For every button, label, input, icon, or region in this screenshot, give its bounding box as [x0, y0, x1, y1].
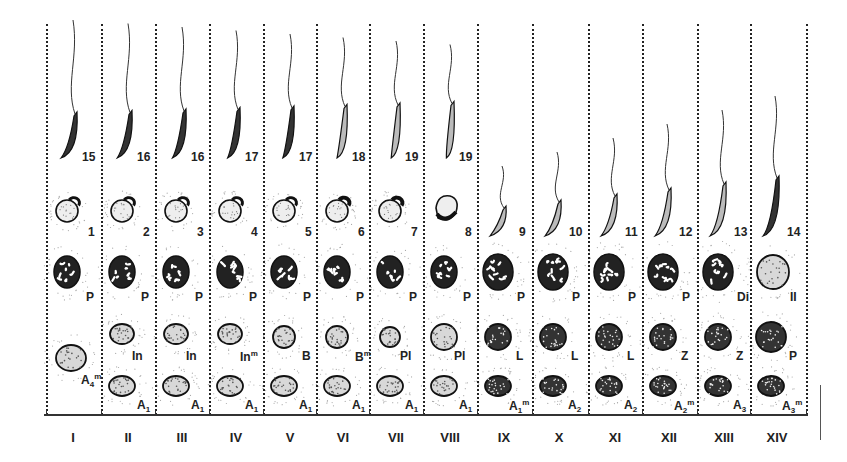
superscript: m [522, 398, 529, 407]
row-p-label-text: P [463, 290, 471, 304]
subscript: 2 [633, 405, 637, 414]
row-mid-label-text: In [186, 349, 197, 363]
spermatid-mid-label-text: 3 [197, 225, 204, 239]
subscript: 1 [308, 405, 312, 414]
column-divider [46, 24, 48, 415]
spermatogonia-a-label-text: A [245, 398, 254, 412]
column-divider [750, 24, 752, 415]
row-p-label: P [572, 291, 580, 303]
row-mid-label-text: L [516, 349, 523, 363]
row-mid-label: Bm [355, 350, 371, 363]
stage-label-vi: VI [316, 430, 370, 445]
superscript: m [364, 349, 371, 358]
row-mid-label-text: P [789, 349, 797, 363]
stage-label-v: V [263, 430, 317, 445]
axis-tick [263, 410, 264, 416]
row-p-label-text: P [628, 290, 636, 304]
row-p-label-text: P [303, 290, 311, 304]
row-p-label-text: Di [737, 290, 749, 304]
spermatid-mid-label-text: 13 [734, 225, 747, 239]
spermatogonia-a-label: A3 [733, 399, 746, 414]
spermatogonia-a-label-text: A [674, 399, 683, 413]
row-mid-label: Pl [400, 350, 411, 362]
spermatid-mid-label: 6 [358, 226, 365, 238]
spermatid-mid-label: 3 [197, 226, 204, 238]
row-p-label: P [682, 291, 690, 303]
row-mid-label-text: Z [681, 349, 688, 363]
axis-tick [806, 410, 807, 416]
spermatogonia-a-label: A3m [782, 399, 802, 415]
spermatid-step-label: 19 [405, 151, 418, 163]
row-p-label: II [790, 291, 797, 303]
stage-label-viii: VIII [423, 430, 477, 445]
spermatid-mid-label: 2 [143, 226, 150, 238]
spermatid-mid-label: 5 [305, 226, 312, 238]
spermatid-step-label-text: 19 [459, 150, 472, 164]
edge-mark [820, 385, 821, 440]
column-divider [588, 24, 590, 415]
spermatogonia-a-label: A1m [509, 399, 529, 415]
row-mid-label: L [516, 350, 523, 362]
spermatogonia-a-label-text: A [568, 398, 577, 412]
spermatid-mid-label: 14 [787, 226, 800, 238]
row-mid-label: Z [681, 350, 688, 362]
superscript: m [94, 372, 101, 381]
superscript: m [795, 398, 802, 407]
spermatogonia-a-label-text: A [459, 398, 468, 412]
superscript: m [687, 398, 694, 407]
row-p-label-text: P [249, 290, 257, 304]
column-divider [263, 24, 265, 415]
row-mid-label-text: Pl [454, 349, 465, 363]
column-divider [697, 24, 699, 415]
spermatid-mid-label-text: 6 [358, 225, 365, 239]
spermatid-mid-label: 9 [519, 226, 526, 238]
spermatid-mid-label-text: 9 [519, 225, 526, 239]
subscript: 3 [791, 406, 795, 415]
column-divider [101, 24, 103, 415]
spermatogonia-a-label: A1 [405, 399, 418, 414]
spermatid-mid-label-text: 14 [787, 225, 800, 239]
row-mid-label: Z [736, 350, 743, 362]
row-p-label-text: P [572, 290, 580, 304]
spermatid-step-label: 19 [459, 151, 472, 163]
spermatid-step-label: 17 [299, 151, 312, 163]
spermatogonia-a-label: A1 [191, 399, 204, 414]
row-mid-label: P [789, 350, 797, 362]
spermatogonia-a-label: A4m [81, 373, 101, 389]
spermatogonia-a-label-text: A [624, 398, 633, 412]
stage-label-vii: VII [369, 430, 423, 445]
spermatid-mid-label-text: 5 [305, 225, 312, 239]
spermatogonia-a-label: A1 [299, 399, 312, 414]
column-divider [532, 24, 534, 415]
spermatid-mid-label: 11 [625, 226, 638, 238]
spermatid-step-label-text: 15 [82, 150, 95, 164]
spermatid-step-label: 17 [245, 151, 258, 163]
spermatogonia-a-label-text: A [509, 399, 518, 413]
spermatid-mid-label-text: 10 [569, 225, 582, 239]
axis-tick [588, 410, 589, 416]
axis-tick [316, 410, 317, 416]
axis-tick [642, 410, 643, 416]
spermatid-step-label: 15 [82, 151, 95, 163]
row-mid-label: L [571, 350, 578, 362]
stage-label-iv: IV [209, 430, 263, 445]
spermatid-step-label: 16 [137, 151, 150, 163]
axis-tick [101, 410, 102, 416]
subscript: 1 [361, 405, 365, 414]
spermatogonia-a-label-text: A [299, 398, 308, 412]
spermatid-step-label-text: 19 [405, 150, 418, 164]
row-mid-label: In [132, 350, 143, 362]
row-p-label: P [409, 291, 417, 303]
spermatid-mid-label: 1 [88, 226, 95, 238]
spermatid-step-label: 16 [191, 151, 204, 163]
spermatid-step-label: 18 [352, 151, 365, 163]
column-divider [209, 24, 211, 415]
stage-label-i: I [46, 430, 100, 445]
spermatid-step-label-text: 17 [245, 150, 258, 164]
stage-label-xi: XI [588, 430, 642, 445]
spermatid-step-label-text: 17 [299, 150, 312, 164]
row-mid-label: Pl [454, 350, 465, 362]
row-p-label: P [303, 291, 311, 303]
row-p-label-text: P [517, 290, 525, 304]
spermatogonia-a-label-text: A [137, 398, 146, 412]
